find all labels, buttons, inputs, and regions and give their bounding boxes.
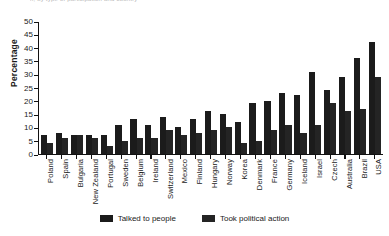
x-tick-label: Poland <box>40 159 52 207</box>
y-tick-45: 45 <box>0 30 38 40</box>
bar <box>166 130 172 154</box>
y-tick-0: 0 <box>0 150 38 160</box>
x-tick-label-text: Germany <box>285 159 294 191</box>
bar-group <box>101 22 113 154</box>
x-tick-label-text: Spain <box>61 159 70 179</box>
bar-group <box>56 22 68 154</box>
legend-swatch <box>202 215 215 222</box>
x-tick-label-text: Ireland <box>151 159 160 183</box>
plot-area <box>38 22 383 155</box>
bar-group <box>279 22 291 154</box>
bar-group <box>294 22 306 154</box>
x-tick-label-text: USA <box>374 159 383 175</box>
chart-legend: Talked to peopleTook political action <box>0 214 389 223</box>
y-tick-label: 10 <box>24 123 33 133</box>
x-tick-label: Belgium <box>130 159 142 207</box>
x-tick-label-text: Switzerland <box>166 159 175 199</box>
x-tick-label: Czech <box>324 159 336 207</box>
bar-group <box>190 22 202 154</box>
bar <box>256 141 262 154</box>
x-tick-label-text: New Zealand <box>91 159 100 204</box>
x-tick-label: Germany <box>279 159 291 207</box>
bar-groups <box>39 22 383 154</box>
x-tick-label-text: Sweden <box>121 159 130 187</box>
x-tick-label-text: France <box>270 159 279 183</box>
x-tick-label: Iceland <box>294 159 306 207</box>
bar <box>330 103 336 154</box>
y-tick-label: 5 <box>29 137 33 147</box>
y-tick-20: 20 <box>0 97 38 107</box>
legend-label: Talked to people <box>118 214 176 223</box>
bar-group <box>175 22 187 154</box>
x-tick-label-text: Norway <box>225 159 234 185</box>
y-tick-label: 15 <box>24 110 33 120</box>
bar-group <box>86 22 98 154</box>
x-tick-label: Norway <box>219 159 231 207</box>
bar <box>241 143 247 154</box>
bar <box>300 133 306 154</box>
bar <box>181 135 187 154</box>
x-tick-label: New Zealand <box>85 159 97 207</box>
x-tick-label: Australia <box>338 159 350 207</box>
x-tick-label: Hungary <box>204 159 216 207</box>
y-tick-10: 10 <box>0 123 38 133</box>
y-tick-25: 25 <box>0 84 38 94</box>
bar <box>360 109 366 154</box>
bar-group <box>235 22 247 154</box>
bar <box>345 111 351 154</box>
x-axis-labels: PolandSpainBulgariaNew ZealandPortugalSw… <box>38 159 383 207</box>
y-tick-40: 40 <box>0 44 38 54</box>
x-tick-label: Korea <box>234 159 246 207</box>
x-tick-label: Brazil <box>353 159 365 207</box>
y-tick-label: 45 <box>24 30 33 40</box>
legend-item[interactable]: Took political action <box>202 214 289 223</box>
bar-group <box>41 22 53 154</box>
x-tick-label: Ireland <box>144 159 156 207</box>
x-tick-label-text: Australia <box>345 159 354 189</box>
x-tick-label-text: Bulgaria <box>76 159 85 187</box>
x-tick-label-text: Portugal <box>106 159 115 188</box>
bar-group <box>220 22 232 154</box>
x-tick-label-text: Iceland <box>300 159 309 184</box>
bar-group <box>309 22 321 154</box>
x-tick-label: Sweden <box>115 159 127 207</box>
bar <box>271 130 277 154</box>
x-tick-label: Mexico <box>174 159 186 207</box>
x-tick-label-text: Israel <box>315 159 324 178</box>
legend-label: Took political action <box>220 214 289 223</box>
x-tick-label: Denmark <box>249 159 261 207</box>
bar-chart: n, by type of participation and country … <box>0 0 389 236</box>
bar-group <box>160 22 172 154</box>
y-axis-ticks: 50454035302520151050 <box>0 22 38 155</box>
bar <box>315 125 321 154</box>
bar-group <box>354 22 366 154</box>
x-tick-label: Israel <box>309 159 321 207</box>
x-tick-label-text: Czech <box>330 159 339 181</box>
x-tick-label: Finland <box>189 159 201 207</box>
bar <box>285 125 291 154</box>
x-tick-label-text: Hungary <box>210 159 219 188</box>
bar <box>211 130 217 154</box>
legend-swatch <box>100 215 113 222</box>
bar <box>92 138 98 154</box>
bar-group <box>71 22 83 154</box>
bar-group <box>339 22 351 154</box>
x-tick-label-text: Korea <box>240 159 249 180</box>
y-tick-label: 20 <box>24 97 33 107</box>
x-tick-label-text: Mexico <box>180 159 189 183</box>
y-tick-50: 50 <box>0 17 38 27</box>
x-tick-label: Spain <box>55 159 67 207</box>
y-tick-label: 50 <box>24 17 33 27</box>
y-tick-15: 15 <box>0 110 38 120</box>
y-tick-30: 30 <box>0 70 38 80</box>
y-tick-5: 5 <box>0 137 38 147</box>
y-tick-label: 0 <box>29 150 33 160</box>
x-tick-label-text: Denmark <box>255 159 264 190</box>
bar <box>47 143 53 154</box>
bar <box>196 133 202 154</box>
x-tick-label-text: Brazil <box>360 159 369 178</box>
bar-group <box>249 22 261 154</box>
legend-item[interactable]: Talked to people <box>100 214 176 223</box>
bar <box>77 135 83 154</box>
bar-group <box>130 22 142 154</box>
